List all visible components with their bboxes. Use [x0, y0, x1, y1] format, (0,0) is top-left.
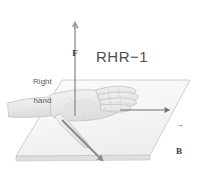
rhr-title-label: RHR−1 [96, 48, 148, 65]
field-vector-symbol: B [172, 147, 186, 156]
force-vector-label: → F [68, 4, 82, 79]
field-vector-label: → B [172, 102, 186, 177]
rhr1-diagram-figure: → F → B → v RHR−1 Right hand [0, 0, 198, 180]
right-hand-label-line2: hand [34, 96, 52, 105]
right-hand-text-label: Right hand [17, 68, 59, 114]
right-hand-label-line1: Right [33, 77, 52, 86]
velocity-vector-label: → v [100, 163, 114, 180]
velocity-vector-arrow [62, 120, 101, 159]
force-vector-symbol: F [68, 49, 82, 58]
field-vector-overbar: → [172, 123, 186, 127]
force-vector-overbar: → [68, 25, 82, 29]
